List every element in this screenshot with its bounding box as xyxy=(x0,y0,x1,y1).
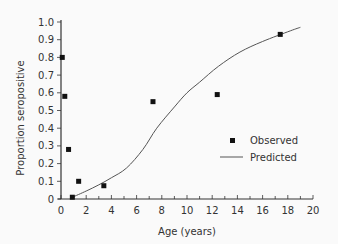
y-tick-label: 0.9 xyxy=(38,34,54,45)
x-tick-label: 20 xyxy=(307,205,320,216)
axes xyxy=(58,20,313,199)
y-tick-label: 0.7 xyxy=(38,70,54,81)
x-tick-label: 16 xyxy=(256,205,269,216)
observed-point xyxy=(70,195,75,200)
x-tick-label: 6 xyxy=(133,205,139,216)
x-tick-label: 4 xyxy=(108,205,114,216)
y-tick-label: 0.6 xyxy=(38,87,54,98)
x-tick-label: 12 xyxy=(206,205,219,216)
y-axis-title: Proportion seropositive xyxy=(15,60,26,175)
observed-point xyxy=(62,94,67,99)
observed-points xyxy=(60,32,283,200)
chart: 0246810121416182000.10.20.30.40.50.60.70… xyxy=(0,0,338,244)
x-tick-label: 10 xyxy=(181,205,194,216)
x-tick-label: 2 xyxy=(83,205,89,216)
x-axis-title: Age (years) xyxy=(158,226,216,237)
predicted-curve xyxy=(72,27,300,197)
observed-point xyxy=(76,179,81,184)
y-tick-label: 0.3 xyxy=(38,140,54,151)
y-tick-label: 0.2 xyxy=(38,158,54,169)
observed-point xyxy=(66,147,71,152)
ticks: 0246810121416182000.10.20.30.40.50.60.70… xyxy=(38,17,319,217)
legend: Observed Predicted xyxy=(220,135,298,163)
observed-point xyxy=(278,32,283,37)
observed-point xyxy=(215,92,220,97)
observed-point xyxy=(101,183,106,188)
y-tick-label: 0.4 xyxy=(38,123,54,134)
predicted-line xyxy=(72,27,300,197)
x-tick-label: 8 xyxy=(159,205,165,216)
legend-observed-label: Observed xyxy=(250,135,298,146)
y-tick-label: 0.5 xyxy=(38,105,54,116)
x-tick-label: 18 xyxy=(281,205,294,216)
legend-predicted-label: Predicted xyxy=(250,152,297,163)
y-tick-label: 1.0 xyxy=(38,17,54,28)
observed-point xyxy=(60,55,65,60)
y-tick-label: 0 xyxy=(48,194,54,205)
x-tick-label: 0 xyxy=(58,205,64,216)
observed-point xyxy=(150,99,155,104)
y-tick-label: 0.8 xyxy=(38,52,54,63)
y-tick-label: 0.1 xyxy=(38,176,54,187)
legend-observed-marker-icon xyxy=(230,138,235,143)
x-tick-label: 14 xyxy=(231,205,244,216)
